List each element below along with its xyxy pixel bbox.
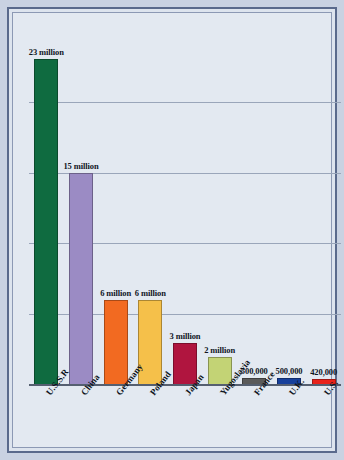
bar-value-label: 15 million — [63, 161, 98, 171]
category-label-slot: Yugoslavia — [208, 387, 232, 451]
x-axis-category-labels: U.S.S.RChinaGermanyPolandJapanYugoslavia… — [29, 387, 341, 451]
bar-group: 23 million — [34, 31, 58, 385]
chart-inner-frame: 23 million15 million6 million6 million3 … — [12, 12, 332, 448]
category-label-slot: Japan — [173, 387, 197, 451]
bar-group: 2 million — [208, 31, 232, 385]
bar-group: 15 million — [69, 31, 93, 385]
category-label-slot: U.S. — [312, 387, 336, 451]
bar-value-label: 3 million — [169, 331, 200, 341]
bar-group: 6 million — [138, 31, 162, 385]
bar-series: 23 million15 million6 million6 million3 … — [29, 31, 341, 385]
bar-value-label: 23 million — [29, 47, 64, 57]
bar-china — [69, 173, 93, 385]
chart-plot-area: 23 million15 million6 million6 million3 … — [29, 31, 341, 451]
bar-value-label: 420,000 — [310, 367, 337, 377]
bar-value-label: 6 million — [135, 288, 166, 298]
bar-group: 500,000 — [277, 31, 301, 385]
category-label-slot: U.K. — [277, 387, 301, 451]
bar-group: 500,000 — [242, 31, 266, 385]
category-label-slot: Poland — [138, 387, 162, 451]
bar-group: 6 million — [104, 31, 128, 385]
bar-value-label: 6 million — [100, 288, 131, 298]
category-label-slot: France — [242, 387, 266, 451]
category-label-slot: China — [69, 387, 93, 451]
bar-germany — [104, 300, 128, 385]
category-label-slot: Germany — [104, 387, 128, 451]
bar-value-label: 2 million — [204, 345, 235, 355]
bar-group: 3 million — [173, 31, 197, 385]
category-label-slot: U.S.S.R — [34, 387, 58, 451]
bar-poland — [138, 300, 162, 385]
bar-u-s-s-r — [34, 59, 58, 385]
bar-group: 420,000 — [312, 31, 336, 385]
bar-value-label: 500,000 — [276, 366, 303, 376]
chart-outer-frame: 23 million15 million6 million6 million3 … — [7, 7, 337, 453]
